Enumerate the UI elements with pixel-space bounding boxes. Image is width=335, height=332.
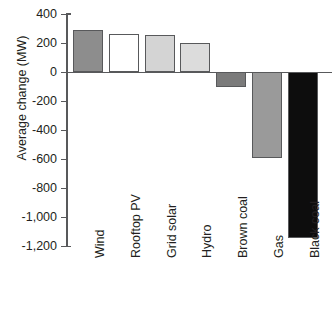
y-axis-line <box>66 13 68 247</box>
x-axis-label-wind: Wind <box>93 166 107 258</box>
bar-chart-figure: Average change (MW) 400 200 0 -200 -400 … <box>0 0 335 332</box>
y-axis-tick-label: -400 <box>5 124 57 136</box>
bar-wind <box>73 30 103 72</box>
x-axis-label-grid-solar: Grid solar <box>165 166 179 258</box>
y-axis-tick-label: 400 <box>5 8 57 20</box>
y-axis-tick-label: -800 <box>5 182 57 194</box>
bar-brown-coal <box>216 72 246 87</box>
x-axis-label-gas: Gas <box>272 166 286 258</box>
x-axis-label-black-coal: Black coal <box>308 166 322 258</box>
bar-hydro <box>180 43 210 72</box>
y-axis-tick-label-group: 400 200 0 -200 -400 -600 -800 -1,000 -1,… <box>0 0 57 332</box>
y-axis-tick-label: -200 <box>5 95 57 107</box>
y-axis-tick-label: -1,000 <box>5 211 57 223</box>
y-axis-tick-label: 0 <box>5 66 57 78</box>
bar-gas <box>252 72 282 158</box>
y-axis-top-cap <box>66 13 71 15</box>
y-axis-bottom-cap <box>66 246 71 248</box>
bar-rooftop-pv <box>109 34 139 72</box>
x-axis-label-hydro: Hydro <box>200 166 214 258</box>
x-axis-label-rooftop-pv: Rooftop PV <box>129 166 143 258</box>
x-axis-label-brown-coal: Brown coal <box>236 166 250 258</box>
y-axis-tick-label: 200 <box>5 37 57 49</box>
bar-grid-solar <box>145 35 175 72</box>
y-axis-tick-label: -1,200 <box>5 240 57 252</box>
y-axis-tick-label: -600 <box>5 153 57 165</box>
